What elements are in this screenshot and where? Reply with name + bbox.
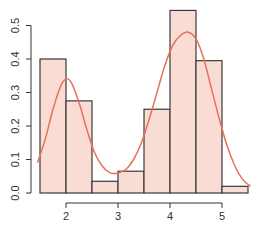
x-axis: 2345 [63,203,225,222]
histogram-bar [40,59,66,193]
x-tick-label: 4 [167,210,173,222]
y-tick-label: 0.1 [9,152,21,167]
histogram-bar [66,101,92,193]
histogram-chart: 0.00.10.20.30.40.5 2345 [0,0,265,228]
histogram-bar [170,10,196,193]
x-tick-label: 2 [63,210,69,222]
y-tick-label: 0.2 [9,118,21,133]
histogram-bar [92,181,118,193]
histogram-bars [40,10,248,193]
y-axis: 0.00.10.20.30.40.5 [9,18,31,201]
histogram-bar [222,186,248,193]
y-tick-label: 0.4 [9,51,21,66]
x-tick-label: 5 [219,210,225,222]
x-tick-label: 3 [115,210,121,222]
histogram-bar [118,171,144,193]
y-tick-label: 0.0 [9,185,21,200]
y-tick-label: 0.5 [9,18,21,33]
y-tick-label: 0.3 [9,85,21,100]
